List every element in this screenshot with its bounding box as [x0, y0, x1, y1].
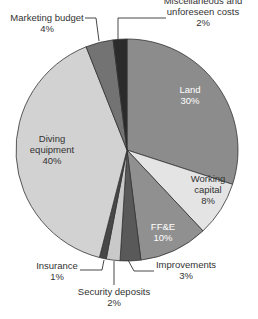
leader-line-improvements: [128, 260, 154, 271]
label-marketing-budget: Marketing budget4%: [10, 12, 84, 34]
label-improvements: Improvements3%: [156, 259, 216, 281]
label-ff-e: FF&E10%: [151, 221, 175, 243]
label-miscellaneous-and-unforeseen-costs: Miscellaneous andunforeseen costs2%: [164, 0, 243, 28]
label-land: Land30%: [179, 84, 200, 106]
label-security-deposits: Security deposits2%: [78, 286, 151, 308]
leader-line-insurance: [80, 260, 104, 270]
label-insurance: Insurance1%: [36, 260, 78, 282]
pie-chart: Land30%Workingcapital8%FF&E10%Improvemen…: [0, 0, 258, 319]
leader-line-marketing-budget: [85, 18, 99, 41]
leader-line-miscellaneous-and-unforeseen-costs: [118, 18, 166, 40]
